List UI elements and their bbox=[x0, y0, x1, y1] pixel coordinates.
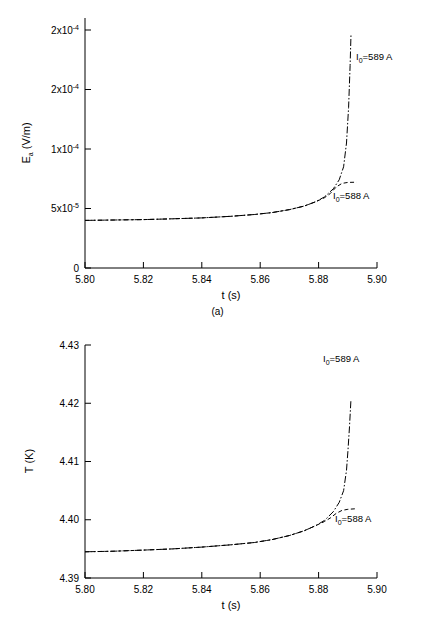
chart-b-curve-i588 bbox=[85, 509, 357, 552]
chart-a-ytick-1-exponent: -5 bbox=[73, 202, 79, 209]
chart-b-xtick-2: 5.84 bbox=[192, 584, 212, 595]
chart-a-xtick-1: 5.82 bbox=[134, 274, 154, 285]
chart-a-curve-i588 bbox=[85, 182, 357, 220]
figure-a-caption: (a) bbox=[0, 306, 435, 317]
chart-b-yaxis-title: T (K) bbox=[23, 449, 35, 473]
figure-a: 5.80 5.82 5.84 5.86 5.88 5.90 0 5x10-5 bbox=[0, 0, 435, 330]
svg-text:T (K): T (K) bbox=[23, 449, 35, 473]
chart-a-yaxis-title: Ea (V/m) bbox=[20, 122, 34, 163]
figure-page: 5.80 5.82 5.84 5.86 5.88 5.90 0 5x10-5 bbox=[0, 0, 435, 637]
chart-b-xtick-0: 5.80 bbox=[75, 584, 95, 595]
chart-a-ytick-1: 5x10-5 bbox=[51, 202, 79, 214]
chart-a-ytick-3: 2x10-4 bbox=[51, 83, 79, 95]
chart-b-ytick-2: 4.41 bbox=[60, 456, 80, 467]
chart-b-annotation-i589: I0=589 A bbox=[323, 353, 360, 366]
chart-a-ytick-3-mantissa: 2x10 bbox=[51, 84, 73, 95]
chart-a-curve-i589 bbox=[85, 35, 351, 221]
figure-b: 5.80 5.82 5.84 5.86 5.88 5.90 4.39 4.40 … bbox=[0, 330, 435, 637]
chart-b-xtick-4: 5.88 bbox=[309, 584, 329, 595]
chart-a-ytick-1-mantissa: 5x10 bbox=[51, 203, 73, 214]
chart-a-svg: 5.80 5.82 5.84 5.86 5.88 5.90 0 5x10-5 bbox=[0, 0, 435, 305]
chart-a-ytick-3-exponent: -4 bbox=[73, 83, 79, 90]
chart-b-ytick-3: 4.42 bbox=[60, 398, 80, 409]
chart-a-xticks: 5.80 5.82 5.84 5.86 5.88 5.90 bbox=[75, 262, 387, 285]
chart-a-ytick-2-mantissa: 1x10 bbox=[51, 144, 73, 155]
chart-a-xtick-3: 5.86 bbox=[250, 274, 270, 285]
chart-a-xtick-5: 5.90 bbox=[367, 274, 387, 285]
chart-a-annotation-i588: I0=588 A bbox=[333, 190, 370, 203]
chart-a-ytick-2-exponent: -4 bbox=[73, 143, 79, 150]
chart-b-xtick-3: 5.86 bbox=[250, 584, 270, 595]
chart-a-ytick-4-mantissa: 2x10 bbox=[51, 25, 73, 36]
chart-b-xticks: 5.80 5.82 5.84 5.86 5.88 5.90 bbox=[75, 572, 387, 595]
chart-a-xtick-0: 5.80 bbox=[75, 274, 95, 285]
chart-b-ytick-0: 4.39 bbox=[60, 573, 80, 584]
chart-b-ytick-4: 4.43 bbox=[60, 340, 80, 351]
svg-text:Ea (V/m): Ea (V/m) bbox=[20, 122, 34, 163]
chart-b-ytick-1: 4.40 bbox=[60, 514, 80, 525]
chart-b-xaxis-title: t (s) bbox=[222, 599, 241, 611]
chart-a-xtick-4: 5.88 bbox=[309, 274, 329, 285]
chart-b-svg: 5.80 5.82 5.84 5.86 5.88 5.90 4.39 4.40 … bbox=[0, 330, 435, 622]
chart-b-xtick-1: 5.82 bbox=[134, 584, 154, 595]
chart-a-xtick-2: 5.84 bbox=[192, 274, 212, 285]
chart-a-annotation-i589: I0=589 A bbox=[356, 51, 393, 64]
chart-b-xtick-5: 5.90 bbox=[367, 584, 387, 595]
chart-b-axes bbox=[85, 345, 377, 578]
chart-b-curve-i589 bbox=[85, 401, 351, 552]
chart-a-ytick-0: 0 bbox=[73, 263, 79, 274]
chart-a-ytick-4-exponent: -4 bbox=[73, 24, 79, 31]
chart-a-ytick-4: 2x10-4 bbox=[51, 24, 79, 36]
chart-b-annotation-i588: I0=588 A bbox=[335, 513, 372, 526]
chart-a-xaxis-title: t (s) bbox=[222, 289, 241, 301]
chart-a-axes bbox=[85, 18, 377, 268]
chart-b-yticks: 4.39 4.40 4.41 4.42 4.43 bbox=[60, 340, 91, 584]
chart-a-ytick-2: 1x10-4 bbox=[51, 143, 79, 155]
